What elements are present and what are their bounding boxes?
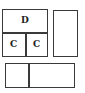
right-tall-block xyxy=(53,10,78,57)
cell-label-c-left: C xyxy=(2,40,25,49)
cell-label-c-right: C xyxy=(25,40,48,49)
bottom-block-vertical-divider xyxy=(28,63,30,88)
bottom-wide-block xyxy=(5,63,75,88)
cell-label-d: D xyxy=(2,16,48,25)
